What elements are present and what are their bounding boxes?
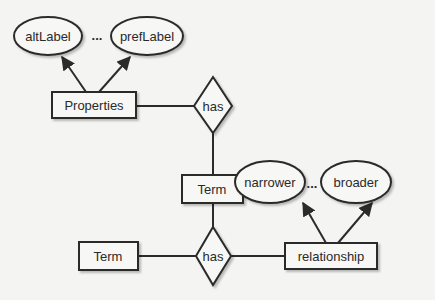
er-diagram: altLabel ... prefLabel Properties has Te… [0, 0, 435, 300]
term-left-text: Term [94, 249, 123, 264]
relation-has-bottom: has [196, 227, 231, 285]
edge-properties-preflabel [99, 57, 130, 92]
narrower-text: narrower [244, 175, 296, 190]
preflabel-text: prefLabel [120, 29, 174, 44]
has-top-text: has [203, 99, 224, 114]
edge-relationship-broader [338, 203, 372, 243]
edge-properties-altlabel [62, 57, 86, 92]
relation-has-top: has [194, 77, 232, 133]
altlabel-text: altLabel [25, 29, 71, 44]
attribute-broader: broader [321, 161, 391, 203]
attribute-preflabel: prefLabel [111, 17, 183, 55]
has-bottom-text: has [203, 249, 224, 264]
ellipsis-top: ... [92, 28, 103, 43]
entity-term-left: Term [79, 242, 138, 270]
ellipsis-bottom: ... [307, 176, 318, 191]
attribute-narrower: narrower [235, 161, 305, 203]
edge-relationship-narrower [303, 203, 326, 243]
diagram-canvas: altLabel ... prefLabel Properties has Te… [0, 0, 435, 300]
entity-relationship: relationship [285, 243, 377, 269]
entity-properties: Properties [52, 92, 136, 118]
broader-text: broader [334, 175, 379, 190]
properties-text: Properties [64, 98, 124, 113]
attribute-altlabel: altLabel [14, 17, 82, 55]
term-middle-text: Term [198, 182, 227, 197]
entity-term-middle: Term [182, 175, 243, 203]
relationship-text: relationship [298, 249, 365, 264]
